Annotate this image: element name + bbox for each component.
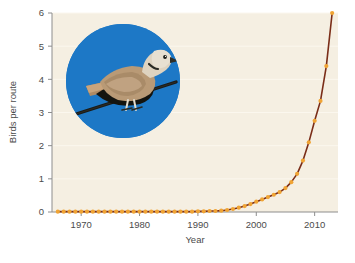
- data-point: [301, 158, 305, 162]
- y-tick-label: 3: [39, 107, 44, 118]
- data-point: [97, 210, 101, 214]
- data-point: [62, 210, 66, 214]
- data-point: [219, 209, 223, 213]
- data-point: [324, 64, 328, 68]
- data-point: [213, 209, 217, 213]
- data-point: [266, 195, 270, 199]
- y-axis-label: Birds per route: [7, 81, 18, 143]
- data-point: [243, 204, 247, 208]
- data-point: [196, 209, 200, 213]
- data-point: [137, 210, 141, 214]
- x-tick-label: 2000: [246, 219, 267, 230]
- data-point: [283, 186, 287, 190]
- data-point: [178, 210, 182, 214]
- x-tick-label: 2010: [304, 219, 325, 230]
- data-point: [307, 140, 311, 144]
- data-point: [231, 207, 235, 211]
- data-point: [202, 209, 206, 213]
- data-point: [184, 210, 188, 214]
- data-point: [132, 210, 136, 214]
- data-point: [79, 210, 83, 214]
- y-tick-label: 5: [39, 41, 44, 52]
- bird-population-figure: 0123456 19701980199020002010 Year Birds …: [0, 0, 355, 263]
- data-point: [67, 210, 71, 214]
- data-point: [318, 99, 322, 103]
- y-tick-label: 0: [39, 206, 44, 217]
- data-point: [313, 119, 317, 123]
- dove-illustration: [66, 24, 180, 138]
- data-point: [73, 210, 77, 214]
- data-point: [85, 210, 89, 214]
- data-point: [155, 210, 159, 214]
- data-point: [108, 210, 112, 214]
- data-point: [102, 210, 106, 214]
- data-point: [272, 193, 276, 197]
- y-tick-label: 4: [39, 74, 44, 85]
- x-tick-label: 1970: [71, 219, 92, 230]
- data-point: [190, 210, 194, 214]
- data-point: [207, 209, 211, 213]
- data-point: [237, 206, 241, 210]
- data-point: [143, 210, 147, 214]
- x-tick-label: 1990: [187, 219, 208, 230]
- x-axis-ticks: 19701980199020002010: [71, 212, 326, 230]
- line-chart: 0123456 19701980199020002010 Year Birds …: [0, 0, 355, 263]
- data-point: [254, 200, 258, 204]
- data-point: [330, 11, 334, 15]
- x-tick-label: 1980: [129, 219, 150, 230]
- data-point: [295, 172, 299, 176]
- y-tick-label: 6: [39, 7, 44, 18]
- data-point: [260, 197, 264, 201]
- y-axis-ticks: 0123456: [39, 7, 52, 217]
- data-point: [167, 210, 171, 214]
- data-point: [248, 202, 252, 206]
- data-point: [126, 210, 130, 214]
- data-point: [120, 210, 124, 214]
- data-point: [289, 180, 293, 184]
- data-point: [114, 210, 118, 214]
- data-point: [56, 210, 60, 214]
- data-point: [278, 190, 282, 194]
- data-point: [225, 208, 229, 212]
- eurasian-collared-dove-photo: [66, 24, 180, 138]
- data-point: [161, 210, 165, 214]
- y-tick-label: 2: [39, 140, 44, 151]
- data-point: [91, 210, 95, 214]
- data-point: [172, 210, 176, 214]
- y-tick-label: 1: [39, 173, 44, 184]
- data-point: [149, 210, 153, 214]
- x-axis-label: Year: [185, 234, 204, 245]
